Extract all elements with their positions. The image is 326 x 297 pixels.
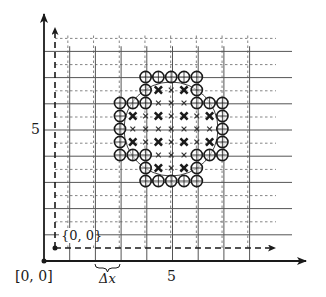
boundary-circle-node — [140, 71, 151, 82]
boundary-circle-node — [191, 175, 202, 186]
boundary-circle-node — [217, 136, 228, 147]
interior-fine-node — [182, 127, 187, 132]
first-node-dot — [53, 246, 58, 251]
boundary-circle-node — [217, 97, 228, 108]
boundary-circle-node — [153, 71, 164, 82]
delta-x-label: Δx — [98, 271, 116, 286]
boundary-circle-node — [191, 149, 202, 160]
interior-coarse-node — [180, 164, 187, 171]
boundary-circle-node — [217, 110, 228, 121]
boundary-circle-node — [114, 136, 125, 147]
boundary-circle-node — [204, 149, 215, 160]
interior-coarse-node — [155, 112, 162, 119]
boundary-circle-node — [191, 71, 202, 82]
boundary-circle-node — [140, 175, 151, 186]
origin-label: [0, 0] — [15, 268, 53, 284]
boundary-circle-node — [178, 71, 189, 82]
interior-coarse-node — [180, 86, 187, 93]
interior-fine-node — [156, 101, 161, 106]
interior-coarse-node — [155, 86, 162, 93]
boundary-circle-node — [191, 84, 202, 95]
boundary-circle-node — [204, 97, 215, 108]
boundary-circle-node — [127, 97, 138, 108]
boundary-circle-node — [114, 123, 125, 134]
interior-coarse-node — [206, 112, 213, 119]
boundary-circle-node — [178, 175, 189, 186]
x-tick-label-5: 5 — [167, 268, 176, 284]
boundary-circle-node — [217, 123, 228, 134]
boundary-circle-node — [114, 110, 125, 121]
interior-coarse-node — [155, 164, 162, 171]
boundary-circle-node — [166, 71, 177, 82]
boundary-circle-node — [191, 162, 202, 173]
interior-coarse-node — [129, 112, 136, 119]
boundary-circle-node — [191, 97, 202, 108]
interior-coarse-node — [180, 138, 187, 145]
interior-coarse-node — [180, 112, 187, 119]
fine-grid-lines — [55, 34, 276, 248]
boundary-circle-node — [127, 149, 138, 160]
boundary-circle-node — [166, 175, 177, 186]
boundary-circle-node — [153, 175, 164, 186]
origin-dot — [42, 259, 47, 264]
interior-coarse-node — [155, 138, 162, 145]
boundary-circle-node — [140, 84, 151, 95]
boundary-circle-node — [140, 97, 151, 108]
boundary-circle-node — [140, 162, 151, 173]
boundary-circle-node — [114, 97, 125, 108]
boundary-circle-node — [114, 149, 125, 160]
interior-fine-node — [207, 127, 212, 132]
grid-diagram: {0, 0} [0, 0] 5 5 Δx — [0, 0, 326, 297]
boundary-circle-node — [217, 149, 228, 160]
interior-fine-node — [130, 127, 135, 132]
first-node-label: {0, 0} — [61, 228, 102, 243]
interior-fine-node — [156, 127, 161, 132]
boundary-circle-node — [140, 149, 151, 160]
interior-fine-node — [182, 101, 187, 106]
interior-coarse-node — [129, 138, 136, 145]
y-tick-label-5: 5 — [31, 121, 40, 137]
interior-coarse-node — [206, 138, 213, 145]
